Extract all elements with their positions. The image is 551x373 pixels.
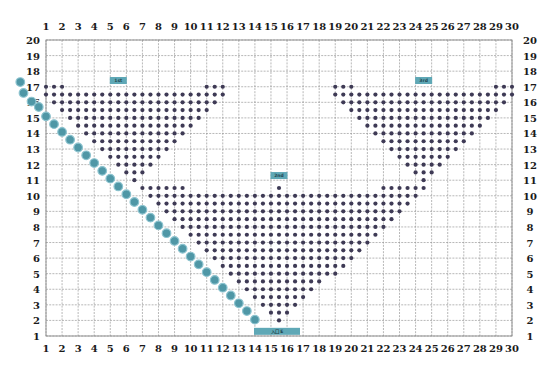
seat-dot	[373, 233, 377, 237]
seat-dot	[269, 217, 273, 221]
seat-dot	[197, 209, 201, 213]
y-tick-label-right: 17	[523, 82, 537, 93]
seat-dot	[116, 108, 120, 112]
seat-dot	[92, 116, 96, 120]
seat-dot	[245, 279, 249, 283]
seat-dot	[430, 139, 434, 143]
seat-dot	[277, 186, 281, 190]
seat-dot	[470, 100, 474, 104]
seat-dot	[454, 116, 458, 120]
seat-dot	[357, 201, 361, 205]
seat-dot	[221, 217, 225, 221]
seat-dot	[156, 131, 160, 135]
diagonal-marker	[226, 291, 235, 300]
seat-dot	[357, 225, 361, 229]
x-tick-label-bottom: 14	[248, 343, 262, 354]
section-label: 2nd	[271, 172, 288, 179]
seat-dot	[413, 163, 417, 167]
seat-dot	[261, 256, 265, 260]
seat-dot	[245, 233, 249, 237]
seat-dot	[413, 147, 417, 151]
seat-dot	[221, 194, 225, 198]
seat-dot	[389, 108, 393, 112]
seat-dot	[277, 225, 281, 229]
diagonal-marker	[58, 128, 67, 137]
seat-dot	[365, 124, 369, 128]
seat-dot	[172, 108, 176, 112]
seat-dot	[253, 295, 257, 299]
seat-dot	[438, 100, 442, 104]
seat-dot	[413, 124, 417, 128]
x-tick-label-top: 13	[232, 21, 246, 32]
seat-dot	[116, 131, 120, 135]
seat-dot	[494, 92, 498, 96]
x-tick-label-bottom: 4	[91, 343, 98, 354]
seat-dot	[100, 108, 104, 112]
seat-dot	[253, 279, 257, 283]
seat-dot	[293, 256, 297, 260]
seat-dot	[180, 92, 184, 96]
seat-dot	[397, 131, 401, 135]
seat-dot	[309, 209, 313, 213]
seat-dot	[213, 92, 217, 96]
seat-dot	[446, 100, 450, 104]
seat-dot	[229, 272, 233, 276]
seat-dot	[309, 225, 313, 229]
seat-dot	[438, 92, 442, 96]
seat-dot	[237, 217, 241, 221]
seat-dot	[502, 85, 506, 89]
x-tick-label-top: 12	[216, 21, 230, 32]
seat-dot	[285, 240, 289, 244]
seat-dot	[269, 225, 273, 229]
seat-dot	[430, 108, 434, 112]
seat-dot	[293, 303, 297, 307]
seat-dot	[245, 272, 249, 276]
seat-dot	[269, 311, 273, 315]
seat-dot	[213, 248, 217, 252]
seat-dot	[221, 92, 225, 96]
seat-dot	[140, 139, 144, 143]
section-label: 3rd	[415, 77, 432, 84]
diagonal-marker	[170, 237, 179, 246]
y-tick-label-right: 4	[527, 284, 534, 295]
seat-dot	[84, 92, 88, 96]
seat-dot	[156, 201, 160, 205]
seat-dot	[237, 256, 241, 260]
seat-dot	[422, 131, 426, 135]
seat-dot	[413, 100, 417, 104]
seat-dot	[438, 163, 442, 167]
x-tick-label-top: 29	[489, 21, 503, 32]
diagonal-marker	[154, 221, 163, 230]
x-tick-label-bottom: 25	[425, 343, 439, 354]
seat-dot	[164, 209, 168, 213]
seat-dot	[285, 209, 289, 213]
y-tick-label-left: 7	[33, 238, 40, 249]
seat-dot	[124, 131, 128, 135]
seat-dot	[357, 248, 361, 252]
x-tick-label-bottom: 7	[139, 343, 146, 354]
seat-dot	[261, 194, 265, 198]
seat-dot	[172, 194, 176, 198]
seat-dot	[494, 100, 498, 104]
diagonal-marker	[74, 143, 83, 152]
seat-dot	[237, 240, 241, 244]
seat-dot	[60, 85, 64, 89]
seat-dot	[389, 92, 393, 96]
seat-dot	[237, 264, 241, 268]
seat-dot	[333, 209, 337, 213]
seat-dot	[413, 194, 417, 198]
seat-dot	[365, 116, 369, 120]
seat-dot	[164, 201, 168, 205]
seat-dot	[301, 225, 305, 229]
seat-dot	[325, 209, 329, 213]
seat-dot	[261, 225, 265, 229]
seat-dot	[325, 256, 329, 260]
seat-dot	[180, 217, 184, 221]
seat-dot	[389, 201, 393, 205]
seat-dot	[116, 139, 120, 143]
seat-dot	[373, 92, 377, 96]
seat-dot	[349, 209, 353, 213]
seat-dot	[221, 233, 225, 237]
seat-dot	[317, 264, 321, 268]
seat-dot	[197, 116, 201, 120]
